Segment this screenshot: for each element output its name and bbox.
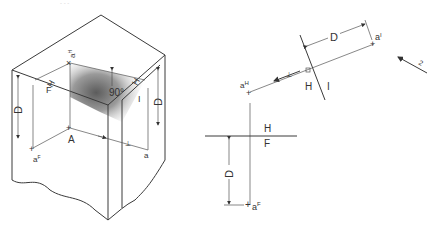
label-a1: aI bbox=[375, 32, 382, 42]
fold-line-top bbox=[35, 63, 70, 80]
label-D-left: D bbox=[12, 106, 24, 114]
arrow-to-plane bbox=[98, 136, 106, 138]
descriptive-geometry-figure: × + + aH F H 90° H I D D A aF a ⊥ ⊥ D + … bbox=[0, 0, 435, 225]
label-D-aux: D bbox=[330, 31, 338, 43]
label-aH: aH bbox=[67, 50, 77, 58]
point-aH-mark: + bbox=[246, 88, 251, 98]
label-fold-H: H bbox=[305, 81, 312, 92]
point-A-mark: + bbox=[66, 123, 71, 133]
label-perp-ortho: ⊥ bbox=[286, 71, 292, 78]
label-A: A bbox=[68, 134, 75, 145]
point-aH-mark: × bbox=[66, 58, 71, 68]
label-fold-F-front: F bbox=[264, 138, 270, 149]
base-line-aF-A bbox=[33, 128, 70, 148]
orthographic-views: ⊥ D + aI H I + aH H F D + aF 2 bbox=[205, 20, 427, 212]
label-view-2: 2 bbox=[418, 59, 425, 67]
label-D-right: D bbox=[152, 98, 164, 106]
label-I-right: I bbox=[138, 94, 141, 104]
label-fold-H-front: H bbox=[264, 123, 271, 134]
label-a1: a bbox=[144, 151, 149, 160]
label-fold-I: I bbox=[327, 81, 330, 92]
base-line-A-a1 bbox=[70, 128, 148, 150]
label-D-front: D bbox=[223, 170, 235, 178]
break-line bbox=[12, 160, 165, 220]
extension-a1 bbox=[365, 20, 372, 40]
label-aF: aF bbox=[252, 201, 261, 212]
label-aF: aF bbox=[33, 154, 41, 164]
point-aF-mark: + bbox=[245, 199, 251, 210]
pictorial-block: × + + aH F H 90° H I D D A aF a ⊥ bbox=[12, 15, 165, 220]
point-aF-mark: + bbox=[29, 144, 34, 154]
label-90-degrees: 90° bbox=[109, 87, 124, 98]
label-perp-pictorial: ⊥ bbox=[125, 140, 131, 147]
